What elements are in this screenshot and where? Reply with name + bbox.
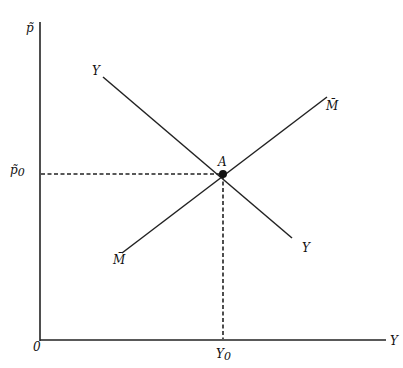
y-curve-start-label: Y (92, 64, 101, 78)
y-curve-end-label: Y (302, 241, 311, 255)
m-curve-start-label: M̄ (112, 252, 126, 267)
x-axis-label: Y (390, 334, 399, 348)
m-curve-end-label: M̄ (325, 98, 339, 113)
equilibrium-point (219, 170, 227, 178)
diagram-canvas: p̃ Y 0 Y Y M̄ M̄ A p̃0 Y0 (0, 0, 403, 368)
y-curve (103, 77, 292, 238)
origin-label: 0 (33, 340, 41, 354)
y-axis-label: p̃ (26, 21, 34, 35)
price-equilibrium-label: p̃0 (10, 163, 25, 179)
output-equilibrium-label: Y0 (216, 347, 231, 363)
equilibrium-point-label: A (217, 155, 227, 169)
